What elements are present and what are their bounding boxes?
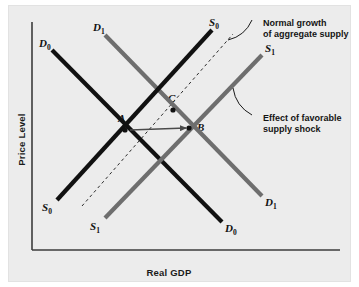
curve-letter: D bbox=[39, 37, 47, 49]
curve-label-d0-lower: D0 bbox=[225, 223, 237, 237]
chart-panel: Price Level Real GDP D0 D0 D1 D1 S0 S0 S… bbox=[8, 5, 351, 282]
curve-subscript: 1 bbox=[101, 27, 105, 36]
curve-label-s0-lower: S0 bbox=[42, 202, 52, 216]
curve-label-s1-lower: S1 bbox=[90, 221, 100, 235]
annotation-line: Normal growth bbox=[263, 18, 349, 29]
curve-label-s0-upper: S0 bbox=[209, 17, 219, 31]
curve-label-d0-upper: D0 bbox=[39, 38, 51, 52]
curve-label-d1-upper: D1 bbox=[93, 22, 105, 36]
curve-subscript: 1 bbox=[96, 226, 100, 235]
x-axis-title: Real GDP bbox=[124, 267, 214, 278]
annotation-normal-growth: Normal growth of aggregate supply bbox=[263, 18, 349, 41]
curve-subscript: 0 bbox=[233, 228, 237, 237]
curve-letter: D bbox=[225, 222, 233, 234]
curve-label-d1-lower: D1 bbox=[265, 197, 277, 211]
annotation-line: supply shock bbox=[263, 124, 342, 135]
curve-subscript: 0 bbox=[48, 207, 52, 216]
curve-label-s1-upper: S1 bbox=[265, 43, 275, 57]
point-label-b: B bbox=[197, 122, 204, 133]
curve-subscript: 0 bbox=[215, 22, 219, 31]
y-axis-title: Price Level bbox=[16, 100, 27, 180]
point-label-c: C bbox=[168, 93, 175, 104]
curve-subscript: 0 bbox=[47, 43, 51, 52]
annotation-line: of aggregate supply bbox=[263, 29, 349, 40]
figure-root: Price Level Real GDP D0 D0 D1 D1 S0 S0 S… bbox=[0, 0, 359, 287]
curve-subscript: 1 bbox=[271, 48, 275, 57]
curve-letter: D bbox=[265, 196, 273, 208]
point-label-a: A bbox=[118, 113, 125, 124]
curve-subscript: 1 bbox=[273, 202, 277, 211]
annotation-supply-shock: Effect of favorable supply shock bbox=[263, 113, 342, 136]
curve-letter: D bbox=[93, 21, 101, 33]
annotation-line: Effect of favorable bbox=[263, 113, 342, 124]
